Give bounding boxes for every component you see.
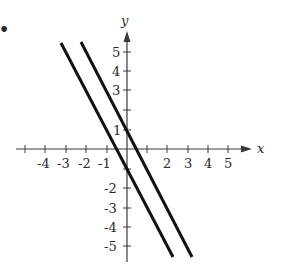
x-tick-labels: -4 -3 -2 -1 2 3 4 5 bbox=[37, 156, 232, 171]
x-tick-label: -3 bbox=[57, 156, 70, 171]
graph: • x y -4 -3 -2 -1 2 3 4 5 bbox=[0, 0, 284, 268]
y-axis-arrow-icon bbox=[124, 31, 131, 42]
x-tick-label: -1 bbox=[98, 156, 111, 171]
y-tick-label: 1 bbox=[113, 123, 121, 138]
y-tick-label: 5 bbox=[112, 45, 120, 60]
x-tick-label: -4 bbox=[37, 156, 50, 171]
x-tick-label: 2 bbox=[163, 156, 171, 171]
y-tick-label: -5 bbox=[104, 239, 117, 254]
y-tick-label: -3 bbox=[104, 201, 117, 216]
x-tick-label: 3 bbox=[184, 156, 192, 171]
x-tick-label: 5 bbox=[224, 156, 232, 171]
y-tick-label: -2 bbox=[104, 181, 117, 196]
x-tick-label: -2 bbox=[78, 156, 91, 171]
y-axis-label: y bbox=[120, 13, 129, 28]
y-tick-label: -4 bbox=[104, 220, 117, 235]
y-tick-label: 3 bbox=[112, 83, 120, 98]
y-tick-label: 4 bbox=[112, 64, 120, 79]
x-tick-label: 4 bbox=[204, 156, 212, 171]
x-axis-label: x bbox=[257, 141, 265, 156]
bullet-marker: • bbox=[0, 20, 9, 39]
x-axis-arrow-icon bbox=[241, 146, 252, 153]
